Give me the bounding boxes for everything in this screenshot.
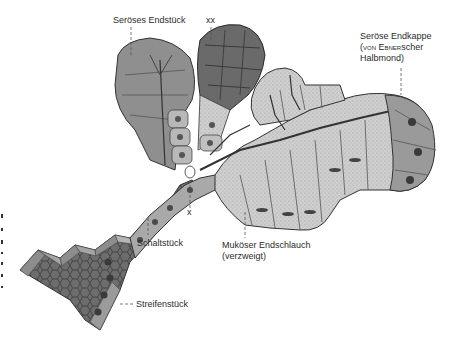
label-seroeses-endstueck: Seröses Endstück (113, 15, 186, 26)
page-edge-marks (1, 214, 3, 288)
label-x: x (187, 207, 192, 218)
label-mukoeser-endschlauch: Muköser Endschlauch (verzweigt) (222, 240, 311, 262)
label-eponym: Ebner (379, 42, 402, 52)
label-seroese-endkappe-line2: (von Ebnerscher (360, 42, 432, 53)
label-mukoeser-endschlauch-line2: (verzweigt) (222, 251, 311, 262)
label-xx: xx (206, 15, 215, 26)
label-suffix: scher (401, 42, 423, 52)
seroeses-endstueck (115, 38, 195, 170)
label-seroese-endkappe-line1: Seröse Endkappe (360, 31, 432, 42)
label-schaltstueck: Schaltstück (137, 238, 183, 249)
label-seroese-endkappe-line3: Halbmond) (360, 53, 432, 64)
label-streifenstueck: Streifenstück (136, 299, 188, 310)
seroese-endkappe (385, 95, 436, 191)
label-seroese-endkappe: Seröse Endkappe (von Ebnerscher Halbmond… (360, 31, 432, 64)
label-mukoeser-endschlauch-line1: Muköser Endschlauch (222, 240, 311, 251)
label-prefix: (von (360, 42, 379, 52)
